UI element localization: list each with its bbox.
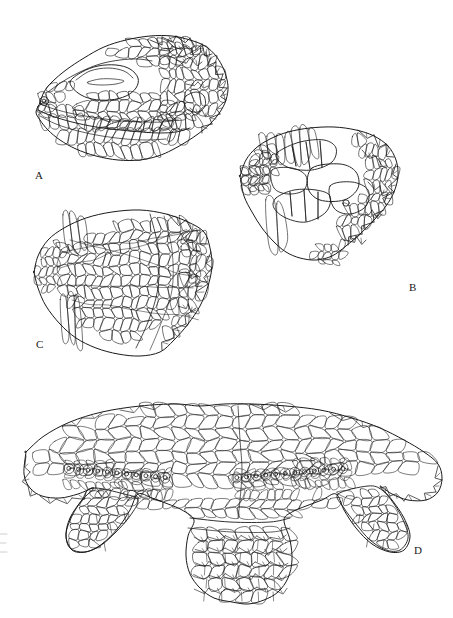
- femoral-scale: [103, 467, 113, 478]
- limb-keel: [110, 524, 112, 533]
- panel-label-a: A: [35, 170, 43, 181]
- eye-orbit-a: [70, 65, 138, 100]
- limb-keel: [96, 514, 98, 523]
- femoral-scale: [112, 468, 122, 477]
- panel-a-lateral-head: [36, 35, 228, 160]
- eye-slit-a: [87, 79, 124, 85]
- scan-edge-artifacts: [0, 534, 7, 552]
- panel-d-ventral-pelvis: [22, 402, 442, 604]
- tail-keel: [225, 579, 226, 588]
- prefrontal-shield-b: [271, 167, 307, 194]
- tail-keel: [257, 540, 258, 549]
- figure-plate: A B C D: [0, 0, 453, 618]
- tail-keel: [274, 553, 275, 562]
- tail-keel: [240, 553, 241, 562]
- femoral-pore: [134, 473, 138, 477]
- panel-label-d: D: [414, 545, 422, 556]
- femoral-pore: [96, 469, 100, 473]
- head-outline-b: [239, 127, 398, 260]
- tail-keel: [258, 579, 259, 588]
- tail-keel: [206, 540, 207, 549]
- limb-keel: [104, 542, 106, 551]
- femoral-scale: [160, 473, 170, 483]
- figure-artwork: [0, 0, 453, 618]
- femoral-pore: [144, 474, 148, 478]
- panel-c-ventral-head: [33, 210, 213, 356]
- tail-keel: [204, 566, 205, 575]
- femoral-scale: [93, 466, 103, 476]
- tail-keel: [274, 579, 275, 588]
- tail-keel: [273, 592, 274, 601]
- femoral-pore: [254, 474, 258, 478]
- panel-label-b: B: [409, 282, 417, 293]
- tail-keel: [206, 579, 207, 588]
- body-outline-d: [24, 404, 442, 604]
- panel-b-dorsal-head: [239, 124, 400, 265]
- vent-line-d: [190, 518, 290, 523]
- femoral-pore: [235, 476, 239, 480]
- panel-label-c: C: [36, 339, 44, 350]
